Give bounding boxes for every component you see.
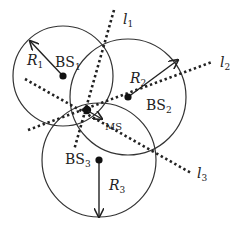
trilateration-diagram: BS1 R1 BS2 R2 BS3 R3 MS l1 l2 l3	[0, 0, 241, 231]
label-l3: l3	[197, 165, 207, 183]
label-bs2: BS2	[146, 97, 172, 115]
line-l2	[28, 62, 212, 130]
label-ms: MS	[105, 121, 122, 132]
label-l1: l1	[123, 11, 133, 29]
label-bs1: BS1	[55, 54, 81, 72]
label-r1: R1	[26, 52, 43, 70]
label-r2: R2	[129, 70, 146, 88]
label-r3: R3	[108, 177, 126, 195]
label-l2: l2	[220, 54, 230, 72]
base-station-bs1-icon	[59, 72, 66, 79]
base-station-bs3-icon	[95, 156, 102, 163]
mobile-station-icon	[83, 106, 91, 114]
base-station-bs2-icon	[124, 93, 131, 100]
label-bs3: BS3	[65, 151, 91, 169]
